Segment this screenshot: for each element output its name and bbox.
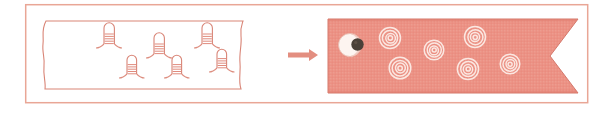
figure-canvas (0, 0, 615, 113)
ribbon-body (328, 19, 578, 93)
membrane-sheet-outline (43, 21, 243, 89)
figure-root: Hairpin-studded sheet transforms into ri… (0, 0, 615, 113)
membrane-sheet (43, 21, 243, 89)
ringed-ribbon (328, 19, 578, 93)
